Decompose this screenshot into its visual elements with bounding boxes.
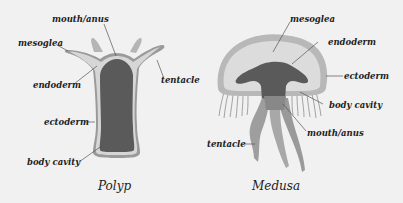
medusa-label-mouth-anus: mouth/anus [307, 129, 364, 138]
polyp-title: Polyp [98, 180, 131, 192]
polyp-label-tentacle: tentacle [161, 76, 200, 85]
polyp-body-cavity [100, 59, 135, 152]
polyp-figure [65, 38, 165, 158]
polyp-back-tentacle-right [130, 38, 142, 53]
medusa-label-mesoglea: mesoglea [290, 15, 335, 24]
polyp-label-mouth-anus: mouth/anus [52, 15, 109, 24]
medusa-manubrium [264, 96, 286, 110]
medusa-label-tentacle: tentacle [207, 140, 246, 149]
polyp-label-endoderm: endoderm [33, 81, 81, 90]
polyp-label-ectoderm: ectoderm [44, 118, 89, 127]
polyp-back-tentacle-left [91, 38, 103, 52]
medusa-label-body-cavity: body cavity [329, 101, 382, 110]
medusa-label-ectoderm: ectoderm [344, 72, 389, 81]
medusa-title: Medusa [252, 180, 300, 192]
polyp-label-body-cavity: body cavity [27, 158, 80, 167]
medusa-figure [218, 34, 328, 172]
polyp-label-mesoglea: mesoglea [18, 39, 63, 48]
medusa-label-endoderm: endoderm [328, 38, 376, 47]
cnidarian-body-plans-diagram: mouth/anus mesoglea endoderm tentacle ec… [0, 0, 403, 203]
